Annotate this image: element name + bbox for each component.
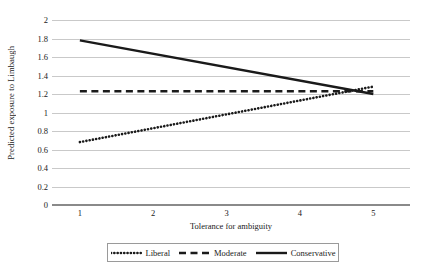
- y-tick-label: 0: [44, 201, 48, 210]
- y-tick-label: 1.6: [37, 53, 48, 62]
- y-tick-label: 1: [44, 108, 48, 117]
- series-line-liberal: [80, 87, 373, 143]
- y-tick-label: 0.8: [37, 127, 48, 136]
- legend-item-liberal[interactable]: Liberal: [111, 248, 171, 258]
- y-tick-label: 1.8: [37, 34, 48, 43]
- x-tick-label: 3: [224, 208, 228, 218]
- y-tick-label: 0.4: [37, 164, 48, 173]
- y-tick-label: 0.2: [37, 182, 48, 191]
- series-line-conservative: [80, 40, 373, 94]
- y-axis-title: Predicted exposure to Limbaugh: [0, 0, 22, 205]
- x-tick-label: 5: [371, 208, 375, 218]
- x-tick-label: 2: [151, 208, 155, 218]
- chart-container: Predicted exposure to Limbaugh 00.20.40.…: [0, 0, 431, 274]
- y-tick-label: 2: [44, 16, 48, 25]
- series-lines: [52, 20, 410, 205]
- legend-swatch-solid-icon: [256, 249, 287, 257]
- x-axis-line: [52, 204, 410, 206]
- x-axis-tick-labels: 12345: [52, 208, 410, 222]
- y-tick-label: 0.6: [37, 145, 48, 154]
- legend-item-moderate[interactable]: Moderate: [179, 248, 247, 258]
- x-axis-title: Tolerance for ambiguity: [52, 221, 410, 231]
- legend-item-conservative[interactable]: Conservative: [256, 248, 336, 258]
- legend-label: Liberal: [146, 248, 171, 258]
- legend-swatch-dashed-icon: [179, 249, 210, 257]
- x-tick-label: 1: [78, 208, 82, 218]
- y-tick-label: 1.4: [37, 71, 48, 80]
- chart-legend: LiberalModerateConservative: [107, 243, 339, 262]
- legend-label: Conservative: [291, 248, 336, 258]
- y-tick-label: 1.2: [37, 90, 48, 99]
- y-axis-title-text: Predicted exposure to Limbaugh: [6, 46, 16, 160]
- x-tick-label: 4: [298, 208, 302, 218]
- plot-area: [52, 20, 410, 205]
- y-axis-tick-labels: 00.20.40.60.811.21.41.61.82: [20, 0, 51, 210]
- legend-label: Moderate: [214, 248, 247, 258]
- legend-swatch-dotted-icon: [111, 249, 142, 257]
